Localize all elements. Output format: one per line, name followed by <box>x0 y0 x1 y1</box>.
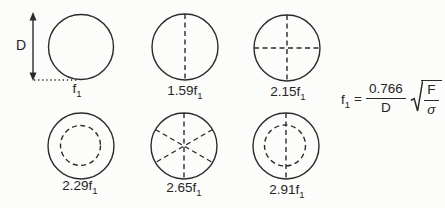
square-root: F σ <box>410 80 442 118</box>
mode-4-frequency-label: 2.29f1 <box>62 179 97 193</box>
radicand-denominator: σ <box>427 101 435 118</box>
mode-6-frequency-text: 2.91f <box>269 182 299 197</box>
frequency-formula: f1 = 0.766 D F σ <box>341 80 442 118</box>
mode-5-frequency-subscript: 1 <box>196 187 201 198</box>
mode-1-frequency-label: f1 <box>72 82 81 96</box>
radicand-numerator: F <box>424 83 438 101</box>
fraction-numerator: 0.766 <box>366 82 406 100</box>
mode-6-nodal-circle <box>265 125 306 166</box>
mode-3-frequency-label: 2.15f1 <box>270 85 305 99</box>
mode-2-frequency-subscript: 1 <box>197 90 202 101</box>
mode-1-frequency-subscript: 1 <box>76 88 81 99</box>
mode-4-frequency-text: 2.29f <box>62 178 92 193</box>
mode-4-boundary-circle <box>48 113 114 179</box>
mode-6-frequency-label: 2.91f1 <box>269 183 304 197</box>
mode-5-frequency-label: 2.65f1 <box>166 181 201 195</box>
mode-3-frequency-subscript: 1 <box>300 91 305 102</box>
mode-3-frequency-text: 2.15f <box>270 84 300 99</box>
formula-lhs-subscript: 1 <box>345 99 350 110</box>
circular-membrane-modes-figure: D f1 1.59f1 2.15f1 2.29f1 2.65f1 2.91f1 … <box>0 0 445 208</box>
fraction-denominator: D <box>381 99 391 116</box>
mode-1-boundary-circle <box>49 15 114 80</box>
mode-4-frequency-subscript: 1 <box>92 185 97 196</box>
mode-2-frequency-label: 1.59f1 <box>167 84 202 98</box>
diameter-arrow <box>30 12 37 81</box>
mode-2-frequency-text: 1.59f <box>167 83 197 98</box>
mode-5-frequency-text: 2.65f <box>166 180 196 195</box>
dimension-label: D <box>16 38 26 52</box>
mode-4-nodal-circle <box>61 126 101 166</box>
coefficient-fraction: 0.766 D <box>366 82 406 117</box>
formula-lhs: f1 <box>341 93 350 107</box>
mode-6-frequency-subscript: 1 <box>299 189 304 200</box>
equals-sign: = <box>354 92 362 106</box>
radicand-fraction: F σ <box>421 80 441 118</box>
